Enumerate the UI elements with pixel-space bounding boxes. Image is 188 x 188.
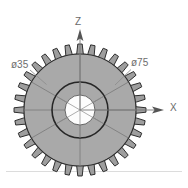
technical-drawing-canvas: ø35 ø75 Z X	[0, 0, 188, 188]
dimension-label-bore-diameter: ø35	[11, 60, 28, 70]
gear-drawing-svg	[0, 0, 188, 188]
axis-label-x: X	[170, 103, 177, 113]
dimension-label-outside-diameter: ø75	[131, 58, 148, 68]
axis-label-z: Z	[75, 17, 81, 27]
